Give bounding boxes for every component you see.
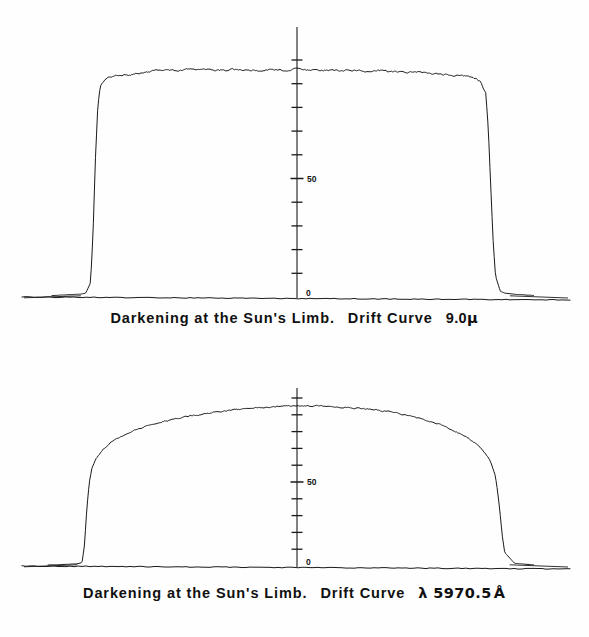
trace-tail-right (510, 296, 568, 298)
axis-label-upper: 50 (307, 477, 317, 487)
caption-top-value: 9.0 (446, 310, 467, 326)
drift-curve-svg-top: 500 (0, 0, 589, 305)
caption-top-prefix: Darkening at the Sun's Limb. (110, 310, 334, 326)
caption-bottom-value: λ 5970.5 (418, 585, 491, 601)
axis-label-zero: 0 (306, 288, 311, 298)
drift-curve-trace (48, 405, 533, 565)
caption-bottom-prefix: Darkening at the Sun's Limb. (83, 585, 307, 601)
drift-curve-plot-9micron: 500 (0, 0, 589, 305)
angstrom-unit-glyph: Å (494, 585, 506, 601)
baseline-axis (22, 297, 570, 301)
axis-label-upper: 50 (307, 174, 317, 184)
caption-bottom: Darkening at the Sun's Limb.Drift Curveλ… (0, 585, 589, 601)
axis-label-zero: 0 (306, 557, 311, 567)
drift-curve-plot-5970angstrom: 500 (0, 340, 589, 580)
caption-top-middle: Drift Curve (348, 310, 433, 326)
trace-tail-right (510, 565, 568, 567)
figure-panel-bottom: 500 Darkening at the Sun's Limb.Drift Cu… (0, 340, 589, 637)
drift-curve-trace (52, 68, 533, 296)
baseline-axis (22, 566, 570, 570)
figure-page: 500 Darkening at the Sun's Limb.Drift Cu… (0, 0, 589, 637)
caption-top: Darkening at the Sun's Limb.Drift Curve9… (0, 310, 589, 326)
micron-unit-glyph: μ (467, 310, 479, 326)
figure-panel-top: 500 Darkening at the Sun's Limb.Drift Cu… (0, 0, 589, 340)
caption-bottom-middle: Drift Curve (320, 585, 405, 601)
drift-curve-svg-bottom: 500 (0, 340, 589, 580)
